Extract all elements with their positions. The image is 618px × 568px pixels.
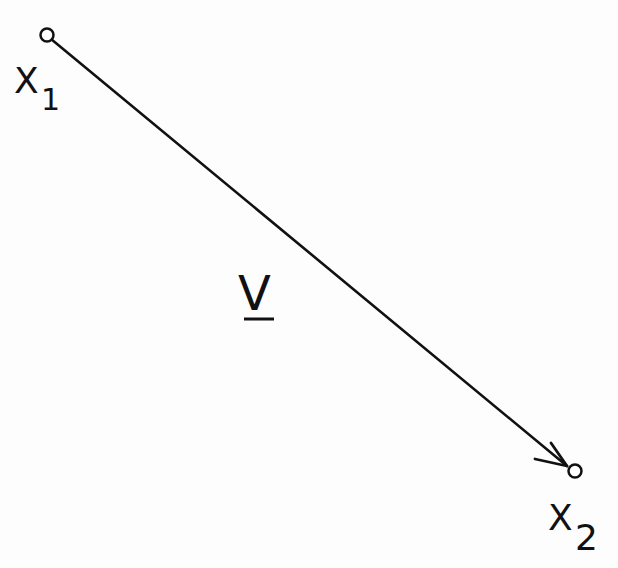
end-point-letter: X <box>548 497 573 538</box>
vector-letter: V <box>238 265 271 321</box>
start-point-label: X 1 <box>14 60 60 117</box>
vector-label: V <box>238 265 274 321</box>
end-point-label: X 2 <box>548 497 598 558</box>
end-point-marker <box>569 465 582 478</box>
end-point-subscript: 2 <box>575 517 598 558</box>
diagram-canvas: X 1 V X 2 <box>0 0 618 568</box>
start-point-subscript: 1 <box>41 82 60 117</box>
vector-line <box>51 39 567 466</box>
start-point-marker <box>41 29 54 42</box>
vector-diagram: X 1 V X 2 <box>0 0 618 568</box>
start-point-letter: X <box>14 60 39 101</box>
